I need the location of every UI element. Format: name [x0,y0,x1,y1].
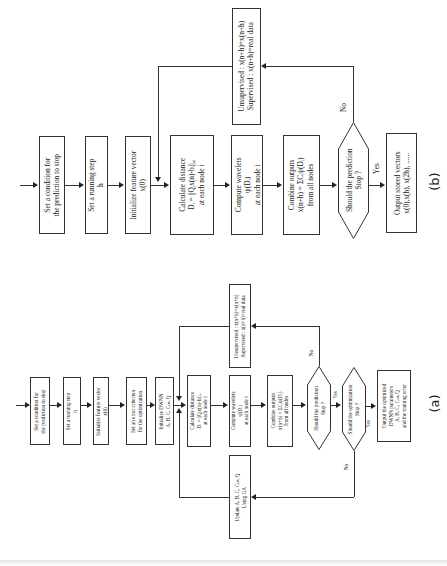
arrow-icon [87,402,92,408]
feedback-text: Supervised : x(n+h)=real data [247,21,256,112]
decision-text: Stop ? [354,149,363,213]
step-combine-outputs: Combine outputsx(n+h) = ΣCᵢψ(Dᵢ)from all… [267,375,293,447]
decision-should-prediction-stop: Should the predictionStop ? [338,122,369,239]
arrow-icon [164,182,169,188]
no-label: No [308,350,314,356]
connector [65,185,80,186]
step-text: Initialize feature vector [129,151,138,220]
connector [179,497,229,498]
arrow-icon [251,323,256,329]
step-text: Combine outputs [288,158,297,213]
arrow-icon [380,182,385,188]
step-text: Calculate distance [189,392,196,430]
no-label: No [343,464,349,470]
step-compute-wavelets: Compute waveletsψ(Dᵢ)at each node i [229,375,251,447]
output-optimized-parameters: Output the optimizedDWNN parametersA, B,… [377,370,411,442]
connector-no [319,326,320,366]
output-text: x(0),x(h), x(2h), ...... [402,151,411,215]
arrow-icon [336,402,341,408]
step-text: Compute wavelets [230,392,237,430]
step-text: at each node i [197,158,206,212]
decision-text: Should the prediction [344,149,353,213]
connector [179,326,180,399]
decision-text: Should the prediction [313,386,320,431]
step-text: h [72,392,79,429]
connector [179,411,180,497]
step-text: Set a running step [66,392,73,429]
decision-text: Should the optimization [348,384,355,434]
decision-text: Stop ? [319,386,326,431]
decision-text: Stop ? [354,384,361,434]
step-calculate-distance: Calculate distanceDᵢ = ||Qᵢx(n)-bᵢ||ₐᵢat… [170,135,214,235]
feedback-update-input: Unsupervised : x(n+h)=x(n+h)Supervised :… [232,8,261,125]
connector [158,66,159,178]
step-text: Set a condition for [43,154,52,217]
arrow-icon [57,402,62,408]
output-text: Output the optimized [381,384,388,428]
arrow-icon [79,182,84,188]
step-combine-outputs: Combine outputsx(n+h) = ΣCᵢψ(Dᵢ)from all… [283,135,320,235]
arrow-icon [176,396,182,401]
step-text: x(n+h) = ΣCᵢψ(Dᵢ) [297,158,306,213]
step-set-running-step: Set a running steph [63,377,81,445]
step-text: the prediction to stop [52,154,61,217]
feedback-update-ga: Update A, B, C, Cₗᵢₙ, QUsing GA [229,455,251,539]
step-text: A, B, C, Cₗᵢₙ, Q [165,393,172,429]
feedback-text: Update A, B, C, Cₗᵢₙ, Q [234,473,241,521]
arrow-icon [120,402,125,408]
step-initialize-feature-vector: Initialize feature vectorx(0) [125,136,151,234]
figure-caption-a: (a) [427,394,442,412]
arrow-icon [119,182,124,188]
step-text: Initialize DWNN [158,393,165,429]
connector [151,185,165,186]
arrow-icon [155,177,161,182]
yes-label: Yes [365,420,371,428]
arrow-icon [223,402,228,408]
step-text: Set a running step [87,158,96,211]
entry-connector [20,185,34,186]
feedback-text: Unsupervised : x(n+h)=x(n+h) [234,294,241,358]
step-text: from all nodes [306,158,315,213]
arrow-icon [277,182,282,188]
connector [158,66,232,67]
decision-should-optimization-stop: Should the optimizationStop ? [342,367,366,451]
connector [263,185,278,186]
step-text: ψ(Dᵢ) [237,392,244,430]
step-set-error-criterion: Set an error criterionfor the optimizati… [126,377,147,445]
connector [179,326,229,327]
figure-caption-b: (b) [427,172,442,190]
arrow-icon [225,182,230,188]
step-text: x(0) [101,387,108,435]
step-set-stop-condition: Set a condition forthe prediction to sto… [39,136,65,234]
step-text: x(0) [138,151,147,220]
step-text: at each node i [243,392,250,430]
step-set-running-step: Set a running steph [85,136,108,234]
decision-should-prediction-stop: Should the predictionStop ? [307,366,331,450]
arrow-icon [301,402,306,408]
feedback-update-input: Unsupervised : x(n+h)=x(n+h)Supervised :… [229,284,251,368]
step-compute-wavelets: Compute waveletsψ(Dᵢ)at each node i [231,135,263,235]
output-text: DWNN parameters [388,384,395,428]
yes-label: Yes [332,391,338,399]
step-text: for the optimization [137,389,144,432]
yes-label: Yes [372,163,381,174]
output-text: and the training error [401,384,408,428]
no-label: No [339,103,348,112]
output-text: A, B, C, Cₗᵢₙ, Q [394,384,401,428]
connector-no [353,66,354,122]
step-calculate-distance: Calculate distanceDᵢ = ||Qᵢx(n)-bᵢ||ₐᵢat… [187,375,211,447]
step-text: h [97,158,106,211]
step-text: Initialize feature vector [95,387,102,435]
step-text: ψ(Dᵢ) [242,158,251,213]
connector [256,497,354,498]
step-initialize-dwnn: Initialize DWNNA, B, C, Cₗᵢₙ, Q [155,377,174,445]
step-text: the prediction to stop [40,389,47,433]
arrow-icon [332,182,337,188]
feedback-text: Unsupervised : x(n+h)=x(n+h) [237,21,246,112]
arrow-icon [33,182,38,188]
page-edge-shadow [0,560,447,566]
step-text: x(n+h) = ΣCᵢψ(Dᵢ) [277,392,284,430]
connector [266,66,353,67]
arrow-icon [251,494,256,500]
step-text: at each node i [252,158,261,213]
